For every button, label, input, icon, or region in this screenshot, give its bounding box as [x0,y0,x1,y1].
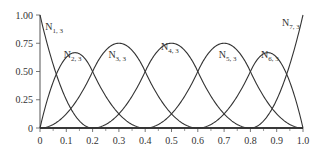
x-tick-label: 0.5 [165,135,178,146]
curve-label-2: N2, 3 [64,49,82,63]
curve-label-5: N5, 3 [219,49,237,63]
x-tick-label: 0.9 [270,135,283,146]
basis-curve-6 [40,53,303,128]
x-tick-label: 0.3 [113,135,126,146]
x-tick-label: 0.8 [244,135,257,146]
basis-curves [40,15,303,128]
basis-curve-1 [40,15,303,128]
basis-curve-2 [40,53,303,128]
x-tick-label: 0.6 [192,135,205,146]
x-tick-label: 0.4 [139,135,152,146]
curve-label-6: N6, 3 [261,49,279,63]
curve-label-7: N7, 3 [282,17,300,31]
y-tick-label: 0 [28,123,33,134]
x-tick-label: 0.7 [218,135,231,146]
x-tick-label: 0 [38,135,43,146]
curve-labels: N1, 3N2, 3N3, 3N4, 3N5, 3N6, 3N7, 3 [45,17,300,63]
x-tick-label: 0.1 [60,135,73,146]
basis-curve-7 [40,15,303,128]
y-tick-label: 0.25 [16,94,34,105]
x-tick-label: 0.2 [86,135,99,146]
curve-label-3: N3, 3 [108,49,126,63]
b-spline-basis-chart: 00.10.20.30.40.50.60.70.80.91.000.250.50… [0,0,324,153]
x-tick-label: 1.0 [297,135,310,146]
y-tick-label: 0.50 [16,66,34,77]
curve-label-1: N1, 3 [45,21,63,35]
y-tick-label: 1.00 [16,10,34,21]
y-tick-label: 0.75 [16,38,34,49]
